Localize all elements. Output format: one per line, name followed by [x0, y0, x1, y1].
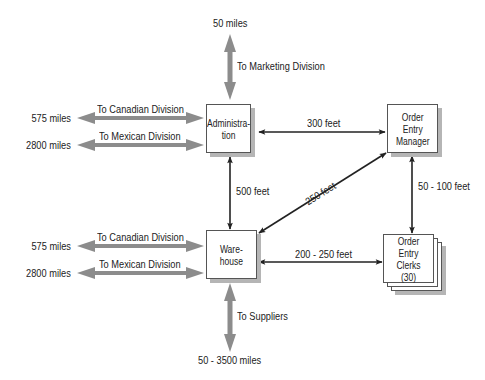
label-admin-mexican-destination: To Mexican Division — [99, 130, 181, 142]
label-suppliers-distance: 50 - 3500 miles — [198, 354, 261, 366]
label-marketing-distance: 50 miles — [213, 17, 247, 29]
label-manager-clerks-distance: 50 - 100 feet — [418, 180, 470, 192]
label-marketing-destination: To Marketing Division — [237, 60, 325, 72]
label-warehouse-mexican-distance: 2800 miles — [26, 267, 71, 279]
node-clerks-line2: Clerks — [389, 259, 429, 271]
distance-diagram: Administra- tion Order Entry Manager War… — [0, 0, 485, 380]
node-administration-line1: Administra- — [207, 117, 250, 129]
node-administration-line2: tion — [207, 129, 250, 141]
node-warehouse-line2: house — [220, 255, 243, 267]
label-admin-canadian-distance: 575 miles — [31, 112, 71, 124]
label-warehouse-clerks-distance: 200 - 250 feet — [295, 248, 352, 260]
label-warehouse-canadian-destination: To Canadian Division — [97, 231, 184, 243]
label-warehouse-canadian-distance: 575 miles — [31, 240, 71, 252]
label-admin-warehouse-distance: 500 feet — [236, 185, 269, 197]
label-admin-canadian-destination: To Canadian Division — [97, 103, 184, 115]
arrow-warehouse-suppliers — [224, 283, 236, 352]
node-manager-line2: Entry — [396, 123, 430, 135]
label-warehouse-mexican-destination: To Mexican Division — [99, 258, 181, 270]
node-manager-line3: Manager — [396, 135, 430, 147]
external-arrows — [77, 34, 236, 352]
label-admin-mexican-distance: 2800 miles — [26, 139, 71, 151]
arrow-admin-marketing — [224, 34, 236, 100]
node-order-entry-manager: Order Entry Manager — [387, 104, 438, 153]
node-order-entry-clerks: Order Entry Clerks (30) — [383, 234, 434, 283]
node-clerks-line3: (30) — [389, 271, 429, 283]
label-admin-manager-distance: 300 feet — [307, 117, 340, 129]
node-warehouse-line1: Ware- — [220, 243, 243, 255]
label-suppliers-destination: To Suppliers — [237, 310, 288, 322]
node-administration: Administra- tion — [206, 104, 251, 153]
node-warehouse: Ware- house — [206, 230, 257, 279]
node-manager-line1: Order — [396, 111, 430, 123]
node-clerks-line1: Order Entry — [389, 235, 429, 259]
